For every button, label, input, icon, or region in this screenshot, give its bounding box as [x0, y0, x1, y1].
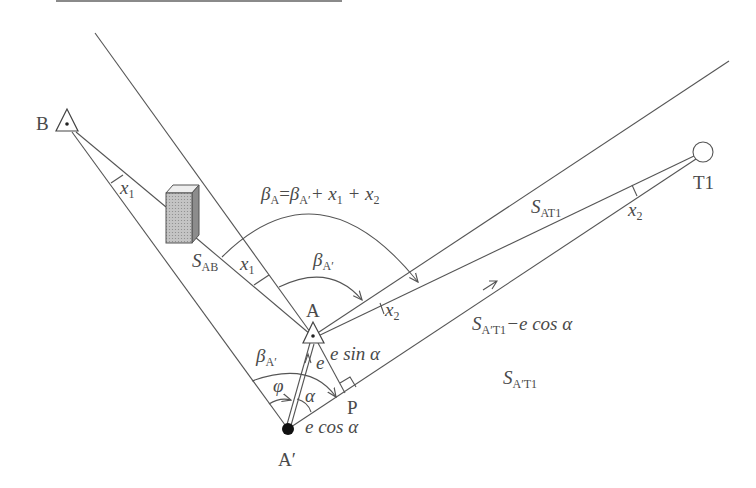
label-alpha: α — [305, 385, 316, 406]
station-B-icon — [56, 109, 78, 131]
eccentric-station-diagram: B A A′ T1 P βA=βA′+ x1 + x2 βA′ βA′ x1 x… — [0, 0, 756, 488]
label-T1: T1 — [693, 172, 714, 193]
x1-tick-A — [254, 275, 269, 285]
x2-tick-T1 — [632, 185, 637, 196]
arc-beta-A-prime-upper — [279, 277, 362, 300]
label-e-sin-alpha: e sin α — [330, 343, 381, 364]
label-P: P — [347, 397, 358, 418]
label-S-A-prime-T1-minus-e-cos-alpha: SA′T1−e cos α — [472, 313, 573, 337]
label-beta-A-prime-lower: βA′ — [255, 345, 277, 369]
arc-phi — [269, 399, 291, 404]
label-e-cos-alpha: e cos α — [305, 416, 359, 437]
label-A-prime: A′ — [278, 449, 296, 470]
label-x2-near-T1: x2 — [627, 199, 642, 223]
label-x1-near-B: x1 — [119, 177, 134, 201]
line-B-to-A-prime — [72, 132, 288, 429]
diagram-canvas: B A A′ T1 P βA=βA′+ x1 + x2 βA′ βA′ x1 x… — [0, 0, 756, 488]
arc-beta-A-prime-lower — [252, 373, 336, 397]
station-A-prime-icon — [282, 423, 294, 435]
arrow-A-prime-T1 — [483, 281, 497, 290]
label-x2-near-A: x2 — [384, 299, 399, 323]
label-beta-A-formula: βA=βA′+ x1 + x2 — [260, 183, 379, 207]
label-e: e — [316, 352, 324, 373]
label-A: A — [306, 300, 320, 321]
station-A-icon — [303, 322, 324, 343]
target-T1-icon — [693, 142, 713, 162]
label-phi: φ — [273, 375, 284, 396]
obstacle-building-icon — [166, 185, 199, 243]
label-beta-A-prime-upper: βA′ — [312, 249, 334, 273]
label-B: B — [36, 113, 49, 134]
label-S-A-prime-T1: SA′T1 — [503, 367, 537, 391]
label-S-AT1: SAT1 — [531, 196, 561, 220]
label-x1-near-A: x1 — [239, 253, 254, 277]
